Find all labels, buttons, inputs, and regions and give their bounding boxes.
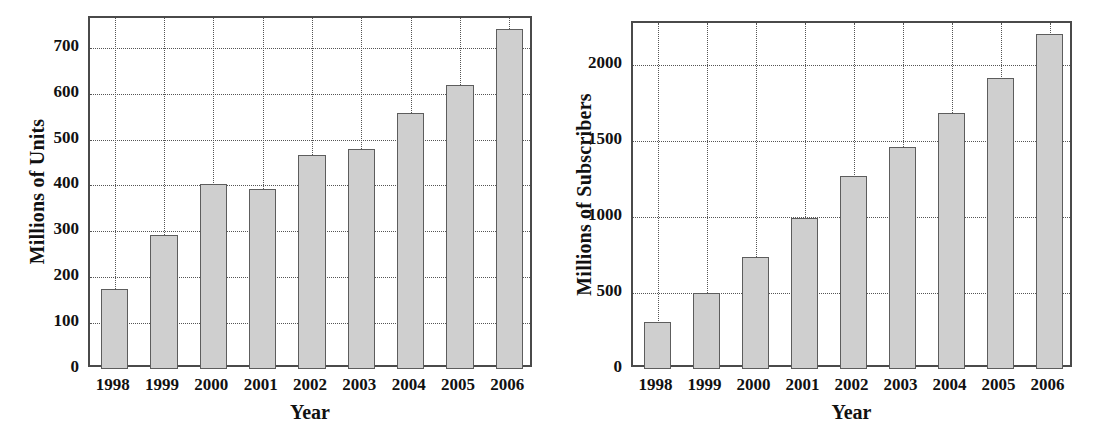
- bar-2001: [791, 218, 818, 369]
- y-tick-label: 1500: [550, 129, 622, 149]
- gridline-horizontal: [633, 65, 1070, 66]
- y-tick-label: 600: [0, 82, 79, 102]
- bar-1998: [101, 289, 129, 369]
- y-tick-label: 400: [0, 173, 79, 193]
- x-tick-label: 1998: [96, 375, 130, 395]
- chart-handset-units: Millions of Units 0100200300400500600700…: [0, 0, 550, 437]
- y-axis-label-text: Millions of Subscribers: [573, 93, 596, 295]
- bar-1999: [150, 235, 178, 369]
- x-tick-label: 2004: [392, 375, 426, 395]
- bar-2000: [742, 257, 769, 369]
- bar-2004: [397, 113, 425, 369]
- x-axis-label: Year: [290, 401, 330, 424]
- x-tick-label: 2000: [737, 375, 771, 395]
- x-tick-label: 2006: [490, 375, 524, 395]
- y-tick-label: 500: [0, 128, 79, 148]
- bar-2002: [840, 176, 867, 369]
- y-tick-label: 0: [0, 357, 79, 377]
- x-tick-label: 2001: [244, 375, 278, 395]
- y-tick-label: 0: [550, 357, 622, 377]
- x-tick-label: 2003: [884, 375, 918, 395]
- plot-area: [88, 16, 532, 367]
- bar-2005: [987, 78, 1014, 369]
- bar-1998: [644, 322, 671, 369]
- x-tick-label: 2005: [441, 375, 475, 395]
- y-tick-label: 100: [0, 311, 79, 331]
- y-tick-label: 1000: [550, 205, 622, 225]
- y-tick-label: 300: [0, 219, 79, 239]
- chart-mobile-subscribers: Millions of Subscribers 0500100015002000…: [550, 0, 1100, 437]
- x-tick-label: 2000: [194, 375, 228, 395]
- bar-2000: [200, 184, 228, 369]
- x-tick-label: 1998: [639, 375, 673, 395]
- x-tick-label: 2005: [982, 375, 1016, 395]
- x-tick-label: 2004: [933, 375, 967, 395]
- bar-2006: [1036, 34, 1063, 369]
- bar-1999: [693, 293, 720, 369]
- x-tick-label: 2006: [1031, 375, 1065, 395]
- x-tick-label: 2003: [342, 375, 376, 395]
- bar-2003: [348, 149, 376, 369]
- bar-2001: [249, 189, 277, 369]
- x-tick-label: 1999: [688, 375, 722, 395]
- bar-2003: [889, 147, 916, 369]
- y-tick-label: 200: [0, 265, 79, 285]
- x-tick-label: 1999: [145, 375, 179, 395]
- x-tick-label: 2002: [293, 375, 327, 395]
- bar-2004: [938, 113, 965, 369]
- bar-2005: [446, 85, 474, 369]
- bar-2006: [496, 29, 524, 369]
- y-tick-label: 700: [0, 36, 79, 56]
- bar-2002: [298, 155, 326, 369]
- plot-area: [631, 21, 1072, 367]
- figure-two-bar-charts: Millions of Units 0100200300400500600700…: [0, 0, 1100, 437]
- x-axis-label: Year: [832, 401, 872, 424]
- y-tick-label: 2000: [550, 53, 622, 73]
- gridline-horizontal: [90, 48, 530, 49]
- y-tick-label: 500: [550, 281, 622, 301]
- x-tick-label: 2001: [786, 375, 820, 395]
- gridline-vertical: [658, 23, 659, 365]
- x-tick-label: 2002: [835, 375, 869, 395]
